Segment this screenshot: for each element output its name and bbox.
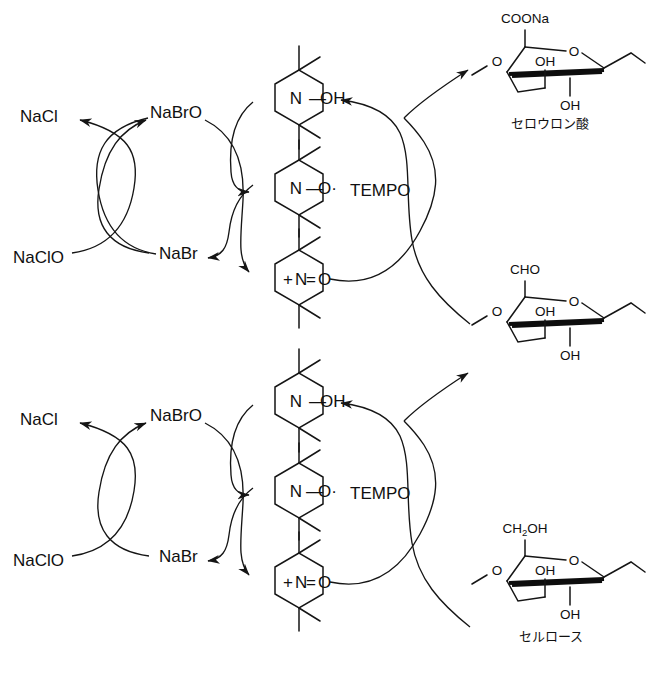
arrow-cellulose-to-hydroxylamine [341,403,470,627]
nitroxyl-group-label: O· [318,179,337,198]
arrow-nitroxyl-to-nabr-upper [208,185,253,258]
tempo-oxoammonium-lower: + N = O [275,532,331,631]
glycosidic-left-bond [472,316,487,325]
oh-group-label: OH [320,89,346,108]
label-nabr-upper: NaBr [159,244,198,263]
ring-oxygen-label: O [569,553,580,568]
label-naclo-upper: NaClO [13,248,64,267]
scheme-canvas: NaCl NaClO NaBrO NaBr N — OH N [0,0,651,678]
arrow-naclo-to-nacl [72,423,135,556]
ring-bond-o-c1 [582,303,604,318]
tempo-nitroxyl-radical-lower: N — O· TEMPO [275,443,410,540]
arrow-naclo-to-nacl [72,120,135,253]
oh-upper-label: OH [535,563,555,578]
oh-lower-label: OH [560,98,580,113]
oxo-group-label: O [318,270,331,289]
arrow-to-cellouronic-acid [404,70,468,118]
oh-upper-label: OH [535,304,555,319]
tempo-hydroxylamine-lower: N — OH [275,349,346,452]
c6-substituent-label: COONa [501,11,550,26]
tempo-label-lower: TEMPO [350,484,410,503]
ring-bond-c5-c4 [507,556,525,581]
oh-lower-label: OH [560,607,580,622]
tempo-oxoammonium-upper: + N = O [275,229,331,328]
ring-bond-o-c1 [582,53,604,68]
label-nacl-lower: NaCl [20,410,58,429]
glycosidic-left-bond [472,575,487,584]
ring-bond-c5-o [525,297,566,301]
reaction-scheme-figure: NaCl NaClO NaBrO NaBr N — OH N [0,0,651,678]
label-nacl-upper: NaCl [20,107,58,126]
tempo-hydroxylamine-upper: N — OH [275,46,346,149]
halogen-cycle-arrows-upper [72,118,156,254]
glycosidic-exit-bond [604,562,645,577]
sugar-name-label-cellulose: セルロース [519,629,583,644]
label-nabr-lower: NaBr [159,547,198,566]
oh-group-label: OH [320,392,346,411]
upper-cycle: NaCl NaClO NaBrO NaBr N — OH N [13,11,645,363]
n-o-bond-glyph: = [306,573,316,592]
n-o-bond-glyph: = [306,270,316,289]
ring-bond-c5-c4 [507,297,525,322]
label-nabro-lower: NaBrO [150,406,202,425]
glycosidic-exit-bond [604,53,645,68]
tempo-label-upper: TEMPO [350,181,410,200]
nitrogen-label: N [290,179,302,198]
sugar-cellulose: CH2OH O O OH OH セルロース [472,521,645,644]
glycosidic-oxygen-label: O [492,54,503,69]
oh-lower-label: OH [560,348,580,363]
bromine-tempo-arrows-upper [205,102,253,272]
nitrogen-label: N [290,482,302,501]
positive-charge-label: + [283,573,293,592]
c6-substituent-label: CHO [510,262,540,277]
halogen-cycle-arrows-lower [72,423,149,556]
arc-nabro-to-nabr-upper [97,118,156,254]
bromine-tempo-arrows-lower [205,405,253,575]
nitrogen-label: N [290,89,302,108]
arrow-to-aldehyde [404,373,468,421]
glycosidic-oxygen-label: O [492,304,503,319]
lower-cycle: NaCl NaClO NaBrO NaBr N — OH N [13,349,645,644]
label-nabro-upper: NaBrO [150,103,202,122]
ring-bond-c5-o [525,47,566,51]
glycosidic-exit-bond [604,303,645,318]
oh-upper-label: OH [535,54,555,69]
ring-oxygen-label: O [569,44,580,59]
oxo-group-label: O [318,573,331,592]
nitroxyl-group-label: O· [318,482,337,501]
ring-oxygen-label: O [569,294,580,309]
ring-bond-o-c1 [582,562,604,577]
arrow-aldehyde-to-hydroxylamine [341,100,470,324]
glycosidic-oxygen-label: O [492,563,503,578]
glycosidic-left-bond [472,66,487,75]
sugar-name-label-cellouronic: セロウロン酸 [511,116,589,131]
nitrogen-label: N [290,392,302,411]
sugar-cellouronic-acid: COONa O O OH OH セロウロン酸 [472,11,645,131]
tempo-nitroxyl-radical-upper: N — O· TEMPO [275,140,410,237]
positive-charge-label: + [283,270,293,289]
arrow-nitroxyl-to-nabr-lower [208,488,253,561]
ring-bond-c5-o [525,556,566,560]
sugar-aldehyde-intermediate-upper: CHO O O OH OH [472,262,645,363]
ring-bond-c5-c4 [507,47,525,72]
label-naclo-lower: NaClO [13,551,64,570]
c6-substituent-label: CH2OH [502,521,547,538]
